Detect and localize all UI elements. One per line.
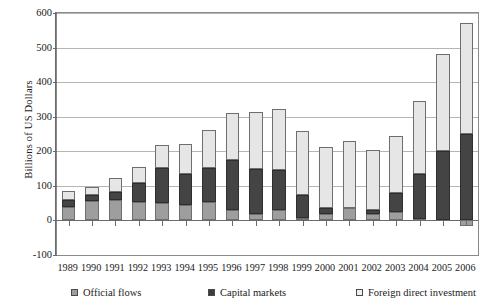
bar-segment-official: [249, 214, 263, 221]
bar-stack[interactable]: [460, 13, 474, 255]
chart-figure: Billions of US Dollars -1000100200300400…: [0, 0, 490, 308]
x-axis-tick-mark: [115, 221, 116, 226]
bar-segment-fdi: [249, 112, 263, 169]
x-axis-labels: 1989199019911992199319941995199619971998…: [56, 262, 479, 276]
foreign-direct-investment-swatch: [356, 289, 363, 296]
bar-segment-capital: [296, 195, 310, 217]
official-flows-swatch: [71, 289, 78, 296]
legend-label: Foreign direct investment: [368, 287, 476, 298]
bar-stack[interactable]: [226, 13, 240, 255]
bar-segment-fdi: [389, 136, 403, 193]
bar-segment-capital: [436, 151, 450, 220]
y-axis-tick-label: -100: [0, 249, 52, 260]
bar-segment-fdi: [155, 145, 169, 168]
bar-stack[interactable]: [132, 13, 146, 255]
x-axis-tick-mark: [232, 221, 233, 226]
y-axis-tick-label: 400: [0, 76, 52, 87]
bar-stack[interactable]: [389, 13, 403, 255]
bar-segment-capital: [155, 168, 169, 203]
bar-stack[interactable]: [319, 13, 333, 255]
bar-segment-fdi: [413, 101, 427, 174]
bar-stack[interactable]: [109, 13, 123, 255]
bar-segment-capital: [85, 195, 99, 201]
x-axis-tick-mark: [209, 221, 210, 226]
y-axis-title: Billions of US Dollars: [23, 40, 34, 220]
x-axis-tick-mark: [69, 221, 70, 226]
bar-segment-capital: [109, 192, 123, 201]
bar-segment-capital: [226, 160, 240, 210]
bar-stack[interactable]: [272, 13, 286, 255]
bar-segment-fdi: [460, 23, 474, 134]
legend-label: Capital markets: [220, 287, 286, 298]
x-axis-tick-mark: [373, 221, 374, 226]
x-axis-tick-mark: [186, 221, 187, 226]
x-axis-tick-mark: [396, 221, 397, 226]
bar-stack[interactable]: [202, 13, 216, 255]
x-axis-tick-mark: [420, 221, 421, 226]
bar-stack[interactable]: [436, 13, 450, 255]
bar-segment-capital: [179, 174, 193, 204]
bar-stack[interactable]: [413, 13, 427, 255]
x-axis-tick-mark: [256, 221, 257, 226]
bar-segment-fdi: [85, 187, 99, 195]
bar-segment-official: [85, 201, 99, 221]
x-axis-tick-mark: [279, 221, 280, 226]
bar-segment-capital: [413, 174, 427, 219]
x-axis-tick-mark: [303, 221, 304, 226]
bar-segment-capital: [389, 193, 403, 212]
bar-stack[interactable]: [85, 13, 99, 255]
capital-markets-swatch: [208, 289, 215, 296]
bar-segment-capital: [132, 183, 146, 202]
y-axis-tick-label: 100: [0, 179, 52, 190]
bar-segment-capital: [249, 169, 263, 214]
bar-segment-capital: [62, 200, 76, 207]
bar-segment-capital: [366, 210, 380, 213]
chart-legend: Official flowsCapital marketsForeign dir…: [56, 287, 490, 303]
legend-item[interactable]: Capital markets: [208, 287, 286, 298]
plot-area: [56, 12, 479, 256]
bar-segment-official: [109, 200, 123, 220]
bar-stack[interactable]: [155, 13, 169, 255]
y-axis-tick-label: 200: [0, 145, 52, 156]
bar-segment-fdi: [319, 147, 333, 208]
bar-segment-fdi: [436, 54, 450, 151]
bar-series-container: [57, 13, 478, 255]
bar-segment-official: [296, 218, 310, 221]
bar-stack[interactable]: [249, 13, 263, 255]
bar-stack[interactable]: [366, 13, 380, 255]
legend-item[interactable]: Foreign direct investment: [356, 287, 476, 298]
x-axis-tick-mark: [162, 221, 163, 226]
x-axis-tick-mark: [92, 221, 93, 226]
bar-segment-official: [272, 210, 286, 220]
bar-segment-capital: [319, 208, 333, 214]
y-axis-tick-label: 500: [0, 41, 52, 52]
bar-segment-fdi: [226, 113, 240, 160]
bar-segment-official: [343, 208, 357, 220]
y-axis-tick-label: 0: [0, 214, 52, 225]
bar-segment-fdi: [366, 150, 380, 211]
bar-segment-official: [62, 207, 76, 221]
bar-segment-official: [202, 202, 216, 220]
bar-stack[interactable]: [343, 13, 357, 255]
bar-segment-capital: [272, 170, 286, 210]
y-axis-tick-mark: [53, 255, 57, 256]
bar-segment-fdi: [296, 131, 310, 195]
x-axis-tick-mark: [326, 221, 327, 226]
bar-stack[interactable]: [179, 13, 193, 255]
y-axis-tick-label: 600: [0, 7, 52, 18]
bar-segment-official: [413, 219, 427, 221]
bar-segment-fdi: [109, 178, 123, 192]
bar-stack[interactable]: [62, 13, 76, 255]
x-axis-tick-mark: [466, 221, 467, 226]
bar-segment-official: [319, 214, 333, 220]
bar-segment-capital: [202, 168, 216, 203]
bar-stack[interactable]: [296, 13, 310, 255]
bar-segment-official: [226, 210, 240, 220]
bar-segment-official: [366, 214, 380, 221]
bar-segment-official: [132, 202, 146, 220]
bar-segment-fdi: [132, 167, 146, 183]
bar-segment-official: [179, 205, 193, 221]
bar-segment-fdi: [179, 144, 193, 174]
bar-segment-official: [155, 203, 169, 220]
legend-item[interactable]: Official flows: [71, 287, 141, 298]
